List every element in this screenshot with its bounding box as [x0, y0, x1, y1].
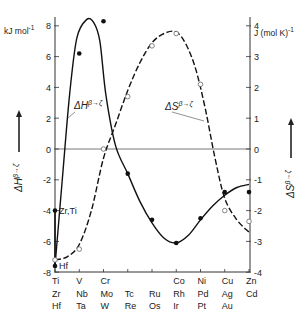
right-tick-label: 0	[254, 145, 259, 155]
right-axis-unit: J (mol K)-1	[254, 26, 294, 38]
left-tick-label: -4	[43, 206, 51, 216]
entropy-curve	[55, 31, 249, 260]
enthalpy-data-point	[53, 208, 58, 213]
left-axis-unit: kJ mol-1	[4, 24, 35, 36]
enthalpy-data-point	[77, 51, 82, 56]
chart-svg: 86420-2-4-6-843210-1-2-3-4TiZrHfVNbTaCrM…	[0, 0, 306, 327]
left-tick-label: 2	[46, 114, 51, 124]
element-label: W	[101, 301, 110, 311]
left-axis-title: ΔHβ→ζ	[12, 110, 24, 193]
element-label: Ta	[76, 301, 86, 311]
element-label: V	[76, 276, 82, 286]
enthalpy-data-point	[125, 171, 130, 176]
left-tick-label: 8	[46, 21, 51, 31]
entropy-data-point	[150, 44, 155, 49]
curves	[55, 18, 249, 266]
element-label: Zr	[52, 289, 61, 299]
entropy-data-point	[174, 31, 179, 36]
entropy-data-point	[222, 208, 227, 213]
enthalpy-data-point	[101, 19, 106, 24]
element-label: Mo	[101, 289, 114, 299]
zr-ti-annotation: Zr,Ti	[59, 206, 77, 216]
enthalpy-curve	[55, 18, 249, 266]
element-label: Co	[173, 276, 185, 286]
entropy-data-point	[53, 258, 58, 263]
svg-text:ΔSβ→ζ: ΔSβ→ζ	[284, 170, 296, 199]
svg-text:ΔSβ→ζ: ΔSβ→ζ	[164, 100, 193, 112]
left-tick-label: -8	[43, 268, 51, 278]
element-label: Zn	[246, 276, 257, 286]
entropy-data-point	[77, 247, 82, 252]
markers	[53, 19, 252, 268]
enthalpy-data-point	[150, 218, 155, 223]
element-label: Pd	[198, 289, 209, 299]
enthalpy-data-point	[174, 241, 179, 246]
dS-curve-label: ΔSβ→ζ	[164, 100, 204, 121]
element-label: Ti	[52, 276, 59, 286]
right-axis-title: ΔSβ→ζ	[284, 118, 296, 199]
element-label: Au	[222, 301, 233, 311]
element-label: Re	[125, 301, 137, 311]
dH-curve-label: ΔHβ→ζ	[68, 99, 103, 118]
enthalpy-data-point	[53, 264, 58, 269]
left-tick-label: -6	[43, 237, 51, 247]
entropy-data-point	[101, 147, 106, 152]
element-label: Ru	[149, 289, 161, 299]
element-label: Nb	[76, 289, 88, 299]
element-label: Cr	[101, 276, 111, 286]
right-tick-label: 2	[254, 83, 259, 93]
right-tick-label: 1	[254, 114, 259, 124]
element-label: Rh	[173, 289, 185, 299]
element-label: Cd	[246, 289, 258, 299]
enthalpy-data-point	[198, 216, 203, 221]
axes: 86420-2-4-6-843210-1-2-3-4TiZrHfVNbTaCrM…	[43, 17, 262, 311]
left-tick-label: 0	[46, 145, 51, 155]
left-tick-label: -2	[43, 175, 51, 185]
right-tick-label: -1	[254, 175, 262, 185]
element-label: Hf	[52, 301, 61, 311]
hf-annotation: Hf	[59, 261, 68, 271]
entropy-data-point	[198, 82, 203, 87]
svg-text:ΔHβ→ζ: ΔHβ→ζ	[12, 163, 24, 193]
entropy-data-point	[125, 94, 130, 99]
element-label: Tc	[125, 289, 135, 299]
element-label: Cu	[222, 276, 234, 286]
enthalpy-entropy-chart: 86420-2-4-6-843210-1-2-3-4TiZrHfVNbTaCrM…	[0, 0, 306, 327]
enthalpy-data-point	[247, 190, 252, 195]
left-tick-label: 6	[46, 52, 51, 62]
svg-text:ΔHβ→ζ: ΔHβ→ζ	[73, 99, 103, 111]
right-tick-label: -3	[254, 237, 262, 247]
right-tick-label: 3	[254, 52, 259, 62]
element-label: Os	[149, 301, 161, 311]
element-label: Ir	[173, 301, 179, 311]
entropy-data-point	[247, 219, 252, 224]
element-label: Ag	[222, 289, 233, 299]
right-tick-label: -2	[254, 206, 262, 216]
element-label: Pt	[198, 301, 207, 311]
left-tick-label: 4	[46, 83, 51, 93]
element-label: Ni	[198, 276, 207, 286]
enthalpy-data-point	[222, 190, 227, 195]
